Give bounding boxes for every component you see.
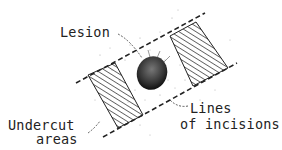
label-lines-line1: Lines — [190, 100, 232, 116]
leader-lines-of-incisions — [170, 100, 188, 106]
label-undercut-line2: areas — [36, 131, 78, 147]
leader-undercut-areas — [88, 121, 100, 133]
excision-diagram: Lesion Lines of incisions Undercut areas — [0, 0, 282, 150]
undercut-area-right — [170, 22, 228, 86]
label-lines-line2: of incisions — [180, 116, 280, 132]
label-lesion: Lesion — [60, 24, 110, 40]
undercut-area-left — [88, 63, 143, 128]
leader-lesion — [118, 34, 142, 58]
lesion — [132, 50, 172, 94]
